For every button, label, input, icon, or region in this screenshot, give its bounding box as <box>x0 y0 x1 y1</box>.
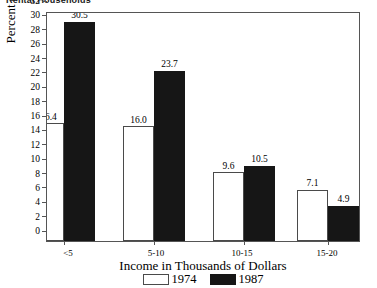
y-axis-tick: 14 <box>26 125 47 135</box>
x-axis-tick-mark <box>64 241 65 245</box>
y-axis-tick-label: 20 <box>26 82 42 92</box>
y-axis-tick: 16 <box>26 111 47 121</box>
y-axis-tick-label: 12 <box>26 140 42 150</box>
y-axis-tick: 2 <box>26 212 47 222</box>
legend-label: 1987 <box>239 272 264 287</box>
plot-area: 02468101214161820222426283032 16.430.516… <box>46 12 360 242</box>
bar-value-label: 4.9 <box>338 195 350 205</box>
y-axis-tick: 4 <box>26 197 47 207</box>
bar-1987-<5 <box>64 22 95 241</box>
y-axis-tick-label: 18 <box>26 97 42 107</box>
y-axis-tick: 8 <box>26 169 47 179</box>
bar-1974-<5 <box>47 123 64 241</box>
y-axis-tick: 6 <box>26 183 47 193</box>
bar-value-label: 7.1 <box>307 179 319 189</box>
y-axis-tick: 28 <box>26 25 47 35</box>
x-axis-tick-mark <box>328 241 329 245</box>
y-axis-tick-label: 6 <box>26 183 42 193</box>
x-axis-tick-label: 5-10 <box>148 248 165 258</box>
y-axis-tick: 26 <box>26 39 47 49</box>
bar-1987-10-15 <box>244 166 275 241</box>
y-axis-tick-label: 24 <box>26 54 42 64</box>
y-axis-tick-label: 26 <box>26 39 42 49</box>
bar-value-label: 16.0 <box>130 116 147 126</box>
y-axis-tick-label: 2 <box>26 212 42 222</box>
x-axis-tick-mark <box>244 241 245 245</box>
x-axis-tick-mark <box>154 241 155 245</box>
y-axis-tick: 30 <box>26 10 47 20</box>
y-axis-tick: 32 <box>26 0 47 6</box>
legend-swatch-1987 <box>210 274 236 285</box>
x-axis-tick-label: <5 <box>63 248 73 258</box>
bar-1987-5-10 <box>154 71 185 241</box>
chart-legend: 19741987 <box>46 272 360 287</box>
bar-1987-15-20 <box>328 206 359 241</box>
bar-value-label: 9.6 <box>223 162 235 172</box>
x-axis-tick-label: 15-20 <box>317 248 338 258</box>
y-axis-tick-label: 30 <box>26 10 42 20</box>
legend-entry-1987: 1987 <box>210 272 264 287</box>
y-axis-tick-mark <box>42 1 47 2</box>
bar-1974-5-10 <box>123 126 154 241</box>
x-axis-tick-label: 10-15 <box>232 248 253 258</box>
legend-entry-1974: 1974 <box>143 272 197 287</box>
y-axis-tick: 22 <box>26 68 47 78</box>
y-axis-tick-label: 8 <box>26 169 42 179</box>
bar-value-label: 23.7 <box>161 60 178 70</box>
bar-series-layer: 16.430.516.023.79.610.57.14.96.03.2 <box>47 13 359 241</box>
bar-value-label: 10.5 <box>251 155 268 165</box>
y-axis-tick: 12 <box>26 140 47 150</box>
legend-label: 1974 <box>172 272 197 287</box>
y-axis-tick-label: 4 <box>26 197 42 207</box>
y-axis-tick: 0 <box>26 226 47 236</box>
bar-1974-15-20 <box>297 190 328 241</box>
bar-value-label: 16.4 <box>47 113 57 123</box>
y-axis-tick-label: 0 <box>26 226 42 236</box>
bar-value-label: 30.5 <box>71 13 88 21</box>
y-axis-tick: 18 <box>26 97 47 107</box>
y-axis-tick: 24 <box>26 54 47 64</box>
y-axis-tick-label: 10 <box>26 154 42 164</box>
legend-swatch-1974 <box>143 274 169 285</box>
bar-1974-10-15 <box>213 172 244 241</box>
y-axis-tick-label: 14 <box>26 125 42 135</box>
y-axis-tick-label: 32 <box>26 0 42 6</box>
y-axis-title: Percent of Rental Households <box>0 0 22 54</box>
y-axis-tick-label: 16 <box>26 111 42 121</box>
y-axis-tick: 20 <box>26 82 47 92</box>
y-axis-tick-label: 28 <box>26 25 42 35</box>
y-axis-tick: 10 <box>26 154 47 164</box>
y-axis-tick-label: 22 <box>26 68 42 78</box>
